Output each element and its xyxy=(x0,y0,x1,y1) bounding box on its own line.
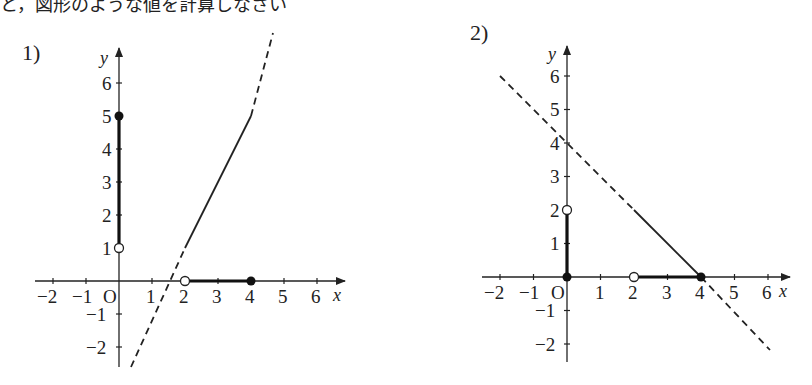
graph-1-dashed-line-lower xyxy=(131,248,185,367)
y-tick-label: 1 xyxy=(102,238,112,259)
closed-point xyxy=(247,277,256,286)
x-tick-label: 6 xyxy=(762,282,772,303)
y-tick-label: 2 xyxy=(102,205,112,226)
y-tick-label: 1 xyxy=(550,233,560,254)
x-tick-label: −2 xyxy=(484,282,504,303)
y-tick-label: 6 xyxy=(102,73,112,94)
x-axis-name: x xyxy=(332,285,341,305)
closed-point xyxy=(697,273,706,282)
y-axis-name: y xyxy=(546,44,556,64)
x-axis-name: x xyxy=(778,281,787,301)
graph-2: −2 −1 O 1 2 3 4 5 6 x 1 2 3 4 5 6 −1 −2 … xyxy=(482,44,790,362)
y-tick-label: 4 xyxy=(550,133,560,154)
closed-point xyxy=(563,273,572,282)
x-tick-label: 4 xyxy=(245,286,255,307)
graph-1-solid-line xyxy=(185,116,251,248)
open-point xyxy=(181,277,190,286)
y-tick-label: 3 xyxy=(550,166,560,187)
graph-1-dashed-line-upper xyxy=(251,33,273,116)
y-tick-label: 2 xyxy=(550,200,560,221)
open-point xyxy=(630,273,639,282)
x-tick-label: 4 xyxy=(695,282,705,303)
y-tick-label: −1 xyxy=(535,300,555,321)
x-tick-label: 2 xyxy=(179,286,189,307)
graph-1: −2 −1 O 1 2 3 4 5 6 x 1 2 3 4 5 6 −1 −2 … xyxy=(35,33,345,367)
y-tick-label: 4 xyxy=(102,139,112,160)
open-point xyxy=(115,244,124,253)
open-point xyxy=(563,206,572,215)
x-tick-label: −2 xyxy=(37,286,57,307)
y-tick-label: 5 xyxy=(550,99,560,120)
y-tick-label: −2 xyxy=(535,334,555,355)
x-tick-label: 5 xyxy=(278,286,288,307)
x-tick-label: 3 xyxy=(662,282,672,303)
x-tick-label: 6 xyxy=(311,286,321,307)
y-tick-label: 3 xyxy=(102,172,112,193)
graph-2-solid-line xyxy=(634,210,701,277)
y-tick-label: 6 xyxy=(550,66,560,87)
graphs-canvas: −2 −1 O 1 2 3 4 5 6 x 1 2 3 4 5 6 −1 −2 … xyxy=(0,0,812,385)
y-tick-label: −2 xyxy=(86,337,106,358)
x-tick-label: 3 xyxy=(212,286,222,307)
x-tick-label: 1 xyxy=(146,286,156,307)
y-tick-label: 5 xyxy=(102,106,112,127)
x-tick-label: 1 xyxy=(595,282,605,303)
y-axis-name: y xyxy=(98,48,108,68)
y-tick-label: −1 xyxy=(86,304,106,325)
x-tick-label: 5 xyxy=(729,282,739,303)
x-tick-label: 2 xyxy=(628,282,638,303)
closed-point xyxy=(115,112,124,121)
